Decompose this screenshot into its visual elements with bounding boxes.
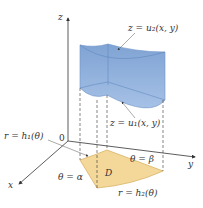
angle-alpha-label: θ = α [58,172,83,182]
upper-surface-label: z = u₂(x, y) [127,23,179,33]
solid-body [80,44,165,108]
angle-beta-label: θ = β [130,154,154,164]
y-axis-label: y [187,159,194,169]
inner-curve-label: r = h₁(θ) [4,131,44,141]
lower-surface-label: z = u₁(x, y) [109,118,161,128]
outer-curve-label: r = h₂(θ) [118,188,158,198]
region-label: D [104,168,112,178]
polar-region-solid-diagram: z y x 0 z = u₂(x, y) z = u₁(x, y) r = h₁… [0,0,203,208]
x-axis-label: x [8,180,13,190]
origin-label: 0 [59,133,65,143]
z-axis-label: z [57,12,63,22]
